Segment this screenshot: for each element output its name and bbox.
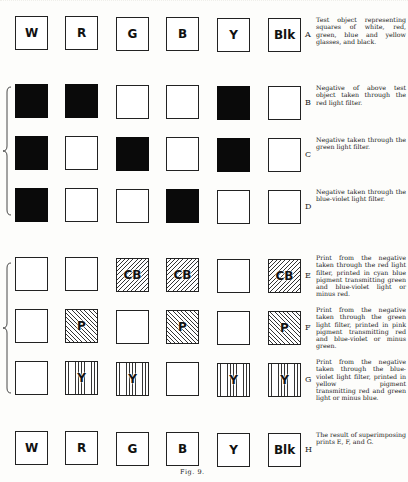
color-square: R bbox=[65, 431, 98, 465]
color-square: CB bbox=[116, 258, 149, 292]
row-letter: A bbox=[305, 30, 311, 39]
square-label: G bbox=[127, 442, 139, 456]
color-square bbox=[217, 311, 250, 345]
color-square: Blk bbox=[268, 18, 301, 52]
square-label: Y bbox=[228, 443, 239, 457]
square-label: W bbox=[24, 26, 39, 40]
color-square: Y bbox=[65, 361, 98, 395]
row-description: Negative taken through the blue-violet l… bbox=[316, 188, 406, 203]
color-square bbox=[116, 85, 149, 119]
color-square: CB bbox=[166, 258, 199, 292]
color-square bbox=[217, 138, 250, 172]
color-square: W bbox=[15, 16, 48, 50]
color-square: W bbox=[15, 431, 48, 465]
row-description: Negative taken through the green light f… bbox=[316, 136, 406, 151]
square-label: R bbox=[76, 441, 87, 455]
color-square bbox=[268, 86, 301, 120]
figure-row-g: YYYYGPrint from the negative taken throu… bbox=[0, 361, 408, 397]
color-square: Y bbox=[268, 363, 301, 397]
figure-row-f: PPPFPrint from the negative taken throug… bbox=[0, 309, 408, 345]
negatives-brace-icon bbox=[2, 86, 12, 216]
square-label: B bbox=[177, 442, 188, 456]
row-description: Print from the negative taken through th… bbox=[316, 306, 406, 350]
square-label: R bbox=[76, 26, 87, 40]
row-letter: C bbox=[305, 150, 311, 159]
color-square: G bbox=[116, 432, 149, 466]
color-square bbox=[116, 137, 149, 171]
color-square bbox=[65, 188, 98, 222]
row-letter: E bbox=[305, 271, 311, 280]
square-label: Y bbox=[76, 371, 87, 385]
color-square bbox=[15, 188, 48, 222]
square-label: CB bbox=[275, 269, 295, 283]
color-square bbox=[166, 189, 199, 223]
color-square bbox=[65, 136, 98, 170]
color-square: Y bbox=[217, 18, 250, 52]
color-square bbox=[15, 309, 48, 343]
prints-brace-icon bbox=[2, 262, 12, 394]
color-square: P bbox=[65, 309, 98, 343]
color-square bbox=[65, 257, 98, 291]
color-square: G bbox=[116, 17, 149, 51]
color-square bbox=[15, 136, 48, 170]
color-square: CB bbox=[268, 259, 301, 293]
figure-row-c: CNegative taken through the green light … bbox=[0, 136, 408, 172]
color-square bbox=[217, 259, 250, 293]
square-label: P bbox=[76, 319, 87, 333]
color-square bbox=[268, 138, 301, 172]
square-label: W bbox=[24, 441, 39, 455]
row-description: Print from the negative taken through th… bbox=[316, 358, 406, 402]
color-square bbox=[116, 189, 149, 223]
color-square bbox=[15, 257, 48, 291]
color-square bbox=[268, 190, 301, 224]
row-letter: D bbox=[305, 202, 311, 211]
square-label: Blk bbox=[273, 28, 296, 42]
row-description: Test object representing squares of whit… bbox=[316, 16, 406, 45]
row-letter: F bbox=[305, 323, 311, 332]
color-square: P bbox=[166, 310, 199, 344]
square-label: Y bbox=[228, 373, 239, 387]
color-square: Y bbox=[116, 362, 149, 396]
figure-row-a: WRGBYBlkATest object representing square… bbox=[0, 16, 408, 52]
row-description: Negative of above test object taken thro… bbox=[316, 84, 406, 106]
cropped-header-line bbox=[0, 0, 408, 5]
square-label: G bbox=[127, 27, 139, 41]
square-label: Blk bbox=[273, 443, 296, 457]
color-square: B bbox=[166, 17, 199, 51]
color-square: Y bbox=[217, 433, 250, 467]
square-label: Y bbox=[279, 373, 290, 387]
square-label: Y bbox=[228, 28, 239, 42]
figure-row-h: WRGBYBlkHThe result of superimposing pri… bbox=[0, 431, 408, 467]
color-square bbox=[217, 190, 250, 224]
color-square: B bbox=[166, 432, 199, 466]
color-square bbox=[166, 137, 199, 171]
color-square bbox=[15, 84, 48, 118]
row-letter: G bbox=[305, 375, 311, 384]
square-label: P bbox=[177, 320, 188, 334]
square-label: P bbox=[279, 321, 290, 335]
color-square bbox=[15, 361, 48, 395]
square-label: B bbox=[177, 27, 188, 41]
figure-row-e: CBCBCBEPrint from the negative taken thr… bbox=[0, 257, 408, 293]
row-description: The result of superimposing prints E, F,… bbox=[316, 431, 406, 446]
row-letter: H bbox=[305, 445, 312, 454]
row-letter: B bbox=[305, 98, 311, 107]
color-square bbox=[166, 362, 199, 396]
figure-row-d: DNegative taken through the blue-violet … bbox=[0, 188, 408, 224]
square-label: CB bbox=[123, 268, 143, 282]
color-square: Y bbox=[217, 363, 250, 397]
color-square bbox=[166, 85, 199, 119]
color-square bbox=[65, 84, 98, 118]
color-square bbox=[116, 310, 149, 344]
square-label: CB bbox=[173, 268, 193, 282]
figure-row-b: BNegative of above test object taken thr… bbox=[0, 84, 408, 120]
color-square bbox=[217, 86, 250, 120]
square-label: Y bbox=[127, 372, 138, 386]
color-square: Blk bbox=[268, 433, 301, 467]
color-square: P bbox=[268, 311, 301, 345]
row-description: Print from the negative taken through th… bbox=[316, 254, 406, 298]
color-square: R bbox=[65, 16, 98, 50]
figure-caption: Fig. 9. bbox=[180, 468, 205, 476]
